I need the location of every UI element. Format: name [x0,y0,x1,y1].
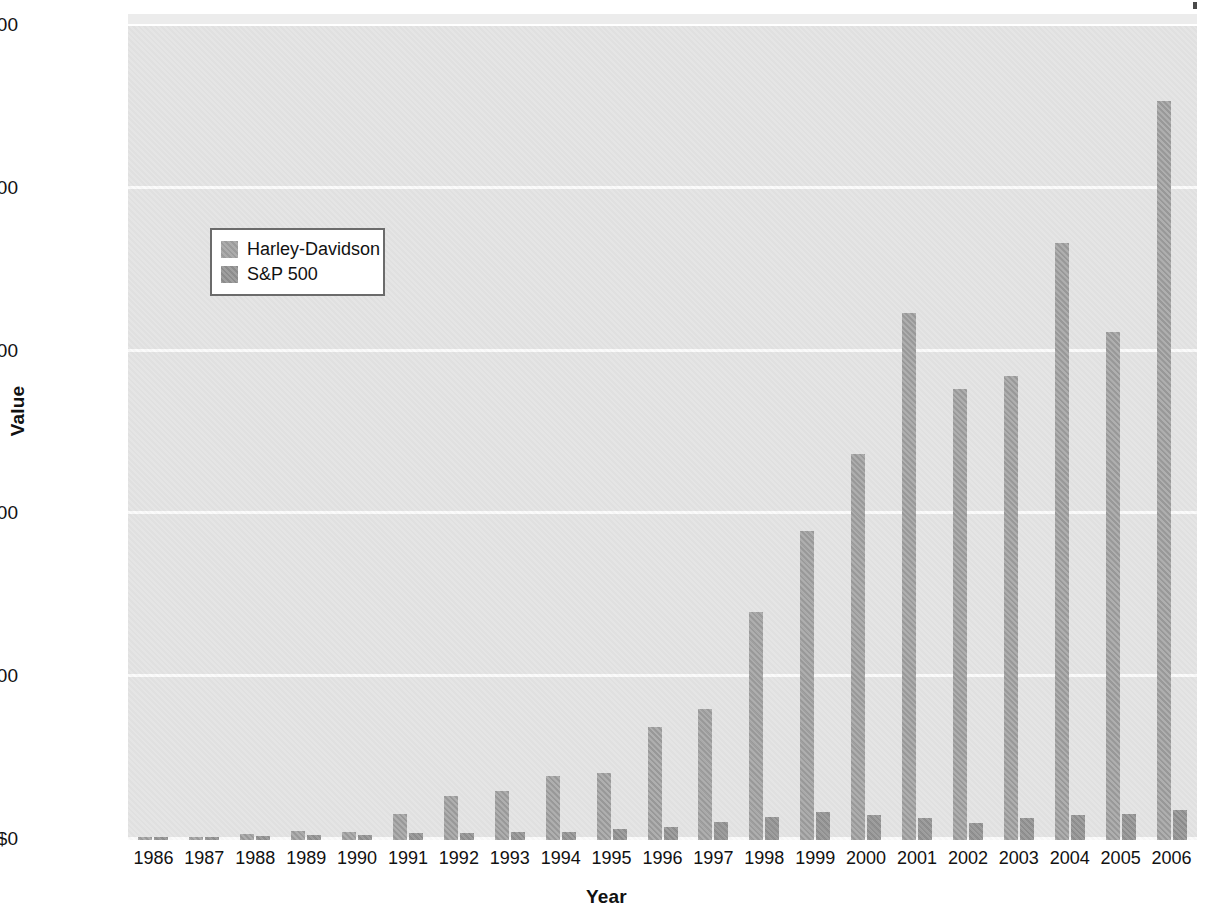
bar [816,812,830,840]
bar [1157,101,1171,840]
bar [154,837,168,840]
bar [867,815,881,840]
stock-performance-chart: Value Year $0$5,000$10,000$15,000$20,000… [0,0,1213,917]
bar [1122,814,1136,840]
bar [240,834,254,840]
bar [307,835,321,840]
bar [1106,332,1120,840]
scan-artifact-speck [1193,2,1197,9]
bar [765,817,779,840]
gridline [128,674,1197,677]
bar [902,313,916,840]
bar [1004,376,1018,840]
bar [1055,243,1069,840]
bar [138,837,152,840]
bar [562,832,576,840]
bar [969,823,983,840]
bar [597,773,611,840]
x-axis-title: Year [0,886,1213,908]
legend-entry-sp-500: S&P 500 [221,262,373,287]
bar [342,832,356,840]
legend-swatch-icon-sp-500 [221,266,238,283]
bar [1071,815,1085,840]
bar [291,831,305,840]
bar [749,612,763,840]
plot-area [128,26,1197,840]
gridline [128,186,1197,189]
bar [511,832,525,840]
bar [189,837,203,840]
bar [409,833,423,840]
bar [918,818,932,840]
chart-legend: Harley-Davidson S&P 500 [210,228,385,296]
bar [1020,818,1034,840]
bar [714,822,728,840]
y-axis-title: Value [7,371,29,451]
bar [664,827,678,840]
bar [256,836,270,840]
bar [953,389,967,840]
x-axis-tick-label: 2006 [1142,848,1202,869]
legend-label-harley-davidson: Harley-Davidson [247,239,380,260]
legend-label-sp-500: S&P 500 [247,264,318,285]
scan-artifact-band [128,14,1197,24]
bar [495,791,509,840]
bar [460,833,474,840]
gridline [128,837,1197,840]
bar [444,796,458,840]
bar [205,837,219,840]
gridline [128,349,1197,352]
bar [393,814,407,840]
bar [1173,810,1187,840]
bar [698,709,712,840]
bar [851,454,865,840]
bar [546,776,560,840]
legend-swatch-icon-harley-davidson [221,241,238,258]
bar [648,727,662,840]
legend-entry-harley-davidson: Harley-Davidson [221,237,373,262]
bar [800,531,814,840]
bar [613,829,627,840]
gridline [128,511,1197,514]
bar [358,835,372,840]
